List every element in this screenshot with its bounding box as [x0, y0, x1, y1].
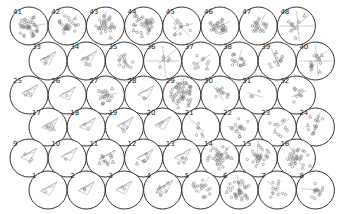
cell-number-label: 11	[89, 140, 98, 148]
cell-number-label: 5	[185, 172, 189, 180]
cell-number-label: 3	[108, 172, 112, 180]
cell-25: 25	[10, 76, 48, 114]
cell-43: 43	[86, 7, 124, 45]
cell-number-label: 47	[242, 8, 251, 16]
cell-number-label: 20	[147, 109, 156, 117]
cell-number-label: 19	[108, 109, 117, 117]
cell-number-label: 8	[299, 172, 303, 180]
cell-number-label: 12	[128, 140, 137, 148]
cell-number-label: 6	[223, 172, 228, 180]
cell-38: 38	[220, 42, 258, 80]
cell-number-label: 45	[166, 8, 175, 16]
cell-41: 41	[10, 7, 48, 45]
cell-number-label: 22	[223, 109, 232, 117]
cell-6: 6	[220, 171, 258, 209]
cell-number-label: 24	[299, 109, 308, 117]
cell-30: 30	[201, 76, 239, 114]
cell-number-label: 9	[13, 140, 17, 148]
cell-number-label: 26	[51, 77, 60, 85]
cell-44: 44	[125, 7, 163, 45]
circle-grid-diagram: 4142434445464748333435363738394025262728…	[0, 0, 342, 214]
cell-number-label: 21	[185, 109, 194, 117]
cell-number-label: 18	[70, 109, 79, 117]
cell-number-label: 27	[89, 77, 98, 85]
cell-number-label: 31	[242, 77, 251, 85]
cell-number-label: 41	[13, 8, 22, 16]
cell-number-label: 35	[108, 43, 117, 51]
cell-10: 10	[48, 139, 86, 177]
cell-number-label: 33	[32, 43, 41, 51]
cell-7: 7	[258, 171, 296, 209]
cell-40: 40	[296, 42, 334, 80]
cell-12: 12	[125, 139, 163, 177]
cell-1: 1	[29, 171, 67, 209]
cell-26: 26	[48, 76, 86, 114]
cell-number-label: 39	[261, 43, 270, 51]
cell-number-label: 7	[261, 172, 265, 180]
cell-number-label: 34	[70, 43, 79, 51]
cell-number-label: 2	[70, 172, 74, 180]
cell-37: 37	[182, 42, 220, 80]
cell-number-label: 38	[223, 43, 232, 51]
cell-16: 16	[277, 139, 315, 177]
cell-number-label: 37	[185, 43, 194, 51]
cell-5: 5	[182, 171, 220, 209]
cell-28: 28	[125, 76, 163, 114]
cell-45: 45	[163, 7, 201, 45]
cell-39: 39	[258, 42, 296, 80]
cell-8: 8	[296, 171, 334, 209]
cell-2: 2	[67, 171, 105, 209]
cell-4: 4	[144, 171, 182, 209]
cell-number-label: 16	[280, 140, 289, 148]
cell-number-label: 13	[166, 140, 175, 148]
cell-33: 33	[29, 42, 67, 80]
cell-31: 31	[239, 76, 277, 114]
cell-number-label: 15	[242, 140, 251, 148]
cell-32: 32	[277, 76, 315, 114]
cell-number-label: 48	[280, 8, 289, 16]
cell-11: 11	[86, 139, 124, 177]
cell-number-label: 25	[13, 77, 22, 85]
cell-46: 46	[201, 7, 239, 45]
cell-number-label: 29	[166, 77, 175, 85]
cell-number-label: 1	[32, 172, 36, 180]
cell-number-label: 17	[32, 109, 41, 117]
cell-9: 9	[10, 139, 48, 177]
cell-number-label: 28	[128, 77, 137, 85]
cell-29: 29	[163, 76, 201, 114]
cell-number-label: 4	[147, 172, 152, 180]
cell-36: 36	[144, 42, 182, 80]
cell-number-label: 46	[204, 8, 213, 16]
cell-42: 42	[48, 7, 86, 45]
cell-15: 15	[239, 139, 277, 177]
cell-35: 35	[105, 42, 143, 80]
cell-number-label: 43	[89, 8, 98, 16]
cell-number-label: 32	[280, 77, 289, 85]
cell-number-label: 14	[204, 140, 213, 148]
cell-number-label: 30	[204, 77, 213, 85]
cell-13: 13	[163, 139, 201, 177]
cell-number-label: 10	[51, 140, 60, 148]
cell-number-label: 23	[261, 109, 270, 117]
cell-48: 48	[277, 7, 315, 45]
cell-number-label: 40	[299, 43, 308, 51]
cell-3: 3	[105, 171, 143, 209]
cell-34: 34	[67, 42, 105, 80]
cell-47: 47	[239, 7, 277, 45]
diagram-canvas: 4142434445464748333435363738394025262728…	[0, 0, 342, 214]
cell-number-label: 42	[51, 8, 60, 16]
cell-number-label: 36	[147, 43, 156, 51]
cell-27: 27	[86, 76, 124, 114]
cell-14: 14	[201, 139, 239, 177]
